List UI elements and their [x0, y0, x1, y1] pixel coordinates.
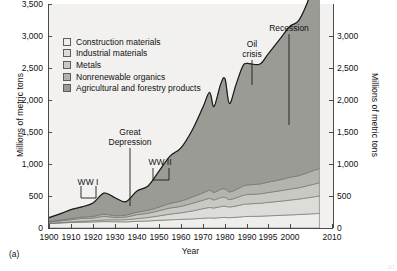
- annotation-great-depression: GreatDepression: [85, 128, 175, 147]
- legend-swatch-icon: [63, 84, 71, 92]
- y-tick-label-right: 1,500: [337, 128, 377, 137]
- legend-label: Agricultural and forestry products: [76, 83, 201, 93]
- legend-swatch-icon: [63, 73, 71, 81]
- y-tick-label-left: 2,000: [0, 96, 43, 105]
- y-tick-label-right: 0: [337, 224, 377, 233]
- legend-item-4: Agricultural and forestry products: [63, 82, 201, 94]
- y-tick-label-right: 1,000: [337, 160, 377, 169]
- y-tick-label-right: 2,500: [337, 64, 377, 73]
- legend-item-1: Industrial materials: [63, 48, 201, 60]
- legend-item-2: Metals: [63, 59, 201, 71]
- legend-swatch-icon: [63, 49, 71, 57]
- legend-swatch-icon: [63, 38, 71, 46]
- y-tick-label-left: 1,500: [0, 128, 43, 137]
- y-tick-label-left: 500: [0, 192, 43, 201]
- y-tick-label-left: 0: [0, 224, 43, 233]
- annotation-recession: Recession: [244, 24, 334, 34]
- annotation-ww2: WW II: [115, 158, 205, 168]
- annotation-line-2: crisis: [207, 50, 297, 60]
- panel-tag-a: (a): [9, 249, 19, 259]
- annotation-oil-crisis: Oilcrisis: [207, 40, 297, 59]
- y-tick-label-left: 3,500: [0, 0, 43, 8]
- y-tick-label-right: 3,000: [337, 32, 377, 41]
- legend-label: Nonrenewable organics: [76, 72, 165, 82]
- x-tick-label: 2000: [270, 233, 310, 242]
- x-tick-label: 2010: [312, 233, 352, 242]
- legend-item-0: Construction materials: [63, 36, 201, 48]
- legend-swatch-icon: [63, 61, 71, 69]
- annotation-line-2: Depression: [85, 138, 175, 148]
- x-axis-label: Year: [48, 246, 333, 256]
- legend-label: Industrial materials: [76, 48, 147, 58]
- chart-legend: Construction materialsIndustrial materia…: [63, 36, 201, 94]
- stacked-area-figure: Millions of metric tons Millions of metr…: [0, 0, 397, 271]
- y-tick-label-right: 500: [337, 192, 377, 201]
- annotation-ww1: WW I: [43, 178, 133, 188]
- legend-label: Metals: [76, 60, 101, 70]
- y-tick-label-right: 2,000: [337, 96, 377, 105]
- y-tick-label-left: 3,000: [0, 32, 43, 41]
- y-tick-label-left: 2,500: [0, 64, 43, 73]
- legend-label: Construction materials: [76, 37, 161, 47]
- y-tick-label-left: 1,000: [0, 160, 43, 169]
- legend-item-3: Nonrenewable organics: [63, 71, 201, 83]
- page-corner-mark: 10: [387, 264, 394, 270]
